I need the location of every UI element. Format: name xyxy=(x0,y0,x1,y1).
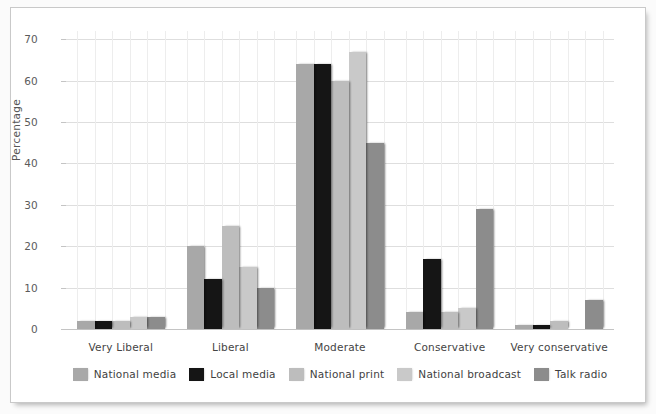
y-axis-tick-label: 30 xyxy=(0,199,38,211)
legend-swatch-icon xyxy=(189,368,204,381)
chart-legend: National mediaLocal mediaNational printN… xyxy=(66,363,614,385)
y-axis-tick-mark xyxy=(61,122,66,123)
bar xyxy=(77,321,95,329)
y-axis-tick-label: 70 xyxy=(0,33,38,45)
plot-area xyxy=(66,31,614,329)
gridline-vertical xyxy=(585,31,586,329)
y-axis-tick-label: 40 xyxy=(0,157,38,169)
bar xyxy=(406,312,424,329)
x-axis-category-label: Very Liberal xyxy=(88,341,153,353)
bar xyxy=(533,325,551,329)
legend-label: Local media xyxy=(210,368,275,380)
bar xyxy=(423,259,441,329)
legend-swatch-icon xyxy=(73,368,88,381)
bar xyxy=(130,317,148,329)
y-axis-tick-label: 20 xyxy=(0,240,38,252)
gridline-vertical xyxy=(533,31,534,329)
legend-swatch-icon xyxy=(397,368,412,381)
gridline-horizontal xyxy=(66,39,614,40)
y-axis-tick-label: 10 xyxy=(0,282,38,294)
bar xyxy=(204,279,222,329)
gridline-vertical xyxy=(95,31,96,329)
bar xyxy=(257,288,275,329)
gridline-vertical xyxy=(568,31,569,329)
gridline-vertical xyxy=(77,31,78,329)
bar xyxy=(476,209,494,329)
legend-item[interactable]: National broadcast xyxy=(397,368,521,381)
y-axis-tick-label: 60 xyxy=(0,75,38,87)
legend-swatch-icon xyxy=(289,368,304,381)
bar xyxy=(515,325,533,329)
gridline-vertical xyxy=(384,31,385,329)
legend-label: National print xyxy=(310,368,385,380)
bar-chart: Percentage National mediaLocal mediaNati… xyxy=(14,11,642,399)
gridline-vertical xyxy=(165,31,166,329)
y-axis-tick-mark xyxy=(61,39,66,40)
legend-label: Talk radio xyxy=(555,368,607,380)
gridline-vertical xyxy=(550,31,551,329)
legend-label: National media xyxy=(94,368,177,380)
bar xyxy=(314,64,332,329)
y-axis-tick-mark xyxy=(61,81,66,82)
legend-swatch-icon xyxy=(534,368,549,381)
gridline-vertical xyxy=(406,31,407,329)
legend-item[interactable]: Local media xyxy=(189,368,275,381)
legend-item[interactable]: Talk radio xyxy=(534,368,607,381)
bar xyxy=(349,52,367,329)
gridline-vertical xyxy=(147,31,148,329)
bar xyxy=(441,312,459,329)
bar xyxy=(222,226,240,329)
bar xyxy=(366,143,384,329)
gridline-vertical xyxy=(130,31,131,329)
gridline-vertical xyxy=(603,31,604,329)
bar xyxy=(585,300,603,329)
bar xyxy=(112,321,130,329)
gridline-horizontal xyxy=(66,329,614,330)
y-axis-tick-mark xyxy=(61,163,66,164)
y-axis-tick-label: 50 xyxy=(0,116,38,128)
bar xyxy=(187,246,205,329)
x-axis-category-label: Very conservative xyxy=(510,341,608,353)
bar xyxy=(550,321,568,329)
x-axis-category-label: Conservative xyxy=(414,341,485,353)
legend-item[interactable]: National print xyxy=(289,368,385,381)
gridline-vertical xyxy=(515,31,516,329)
bar xyxy=(147,317,165,329)
gridline-vertical xyxy=(441,31,442,329)
bar xyxy=(296,64,314,329)
gridline-vertical xyxy=(257,31,258,329)
y-axis-tick-mark xyxy=(61,205,66,206)
gridline-vertical xyxy=(112,31,113,329)
legend-item[interactable]: National media xyxy=(73,368,177,381)
gridline-vertical xyxy=(274,31,275,329)
scanned-page: Percentage National mediaLocal mediaNati… xyxy=(0,0,656,414)
gridline-vertical xyxy=(458,31,459,329)
legend-label: National broadcast xyxy=(418,368,521,380)
y-axis-tick-mark xyxy=(61,288,66,289)
y-axis-tick-mark xyxy=(61,246,66,247)
y-axis-tick-mark xyxy=(61,329,66,330)
bar xyxy=(331,81,349,329)
bar xyxy=(95,321,113,329)
y-axis-title: Percentage xyxy=(10,99,22,161)
bar xyxy=(458,308,476,329)
x-axis-category-label: Liberal xyxy=(212,341,249,353)
bar xyxy=(239,267,257,329)
y-axis-tick-label: 0 xyxy=(0,323,38,335)
x-axis-category-label: Moderate xyxy=(314,341,366,353)
